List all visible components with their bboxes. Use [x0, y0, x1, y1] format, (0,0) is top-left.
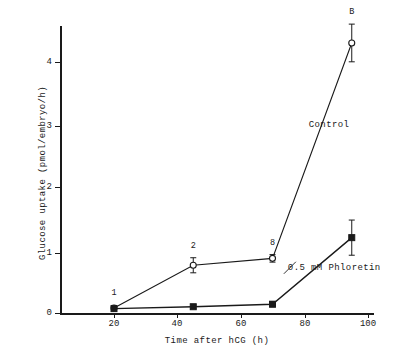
- marker-filled-square: [349, 235, 355, 241]
- point-label-2: 2: [183, 242, 203, 251]
- marker-open-circle: [190, 262, 196, 268]
- marker-filled-square: [111, 306, 117, 312]
- marker-open-circle: [270, 255, 276, 261]
- point-label-8: 8: [263, 239, 283, 248]
- point-label-b: B: [342, 8, 362, 17]
- plot-area: [0, 0, 406, 356]
- marker-filled-square: [190, 304, 196, 310]
- series-label-phloretin: 0.5 mM Phloretin: [288, 263, 381, 273]
- marker-open-circle: [349, 40, 355, 46]
- series-line-1: [114, 238, 352, 309]
- series-label-control: Control: [309, 120, 350, 130]
- chart-figure: 0 1 2 3 4 20 40 60 80 100 Glucose uptake…: [0, 0, 406, 356]
- marker-filled-square: [270, 301, 276, 307]
- point-label-1: 1: [104, 289, 124, 298]
